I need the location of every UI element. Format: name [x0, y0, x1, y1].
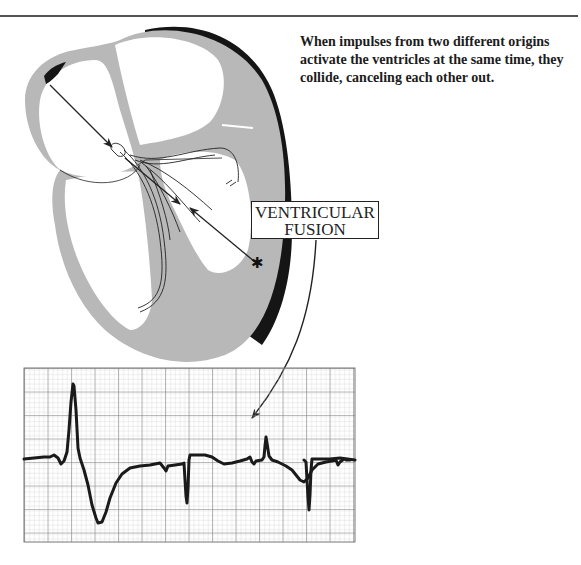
ventricular-fusion-label: VENTRICULAR FUSION	[251, 201, 379, 239]
right-ventricle	[65, 172, 152, 330]
ecg-strip	[24, 368, 355, 542]
label-line-1: VENTRICULAR	[252, 204, 378, 221]
heart-cross-section: ✱	[25, 27, 292, 362]
heart-ecg-diagram: ✱	[0, 0, 581, 565]
label-line-2: FUSION	[252, 221, 378, 238]
ectopic-focus-icon: ✱	[251, 254, 264, 272]
